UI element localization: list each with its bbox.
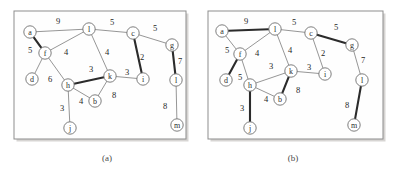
graph-node-b: b (89, 95, 101, 107)
edge-weight-a-l: 9 (244, 16, 248, 26)
graph-node-i: i (319, 68, 331, 80)
graph-node-m: m (348, 119, 360, 131)
graph-node-j: j (64, 122, 76, 134)
graph-node-k: k (104, 70, 116, 82)
node-label-m: m (174, 121, 181, 130)
node-label-g: g (350, 41, 354, 50)
graph-node-a: a (24, 26, 36, 38)
edge-weight-c-i: 2 (140, 52, 144, 62)
edge-weight-c-g: 5 (153, 23, 157, 33)
graph-node-c: c (127, 27, 139, 39)
node-label-h: h (66, 81, 70, 90)
node-label-d: d (30, 75, 34, 84)
graph-node-d: d (220, 74, 232, 86)
graph-node-a: a (216, 25, 228, 37)
node-label-g: g (170, 41, 174, 50)
node-label-a: a (220, 27, 224, 36)
panel-caption: (a) (102, 153, 112, 163)
node-label-d: d (224, 76, 228, 85)
edge-weight-h-k: 3 (89, 64, 93, 74)
graph-node-h: h (62, 79, 74, 91)
panel-b: 955445275343838alcgfdhkbiljm(b) (208, 11, 386, 163)
edge-weight-a-l: 9 (56, 16, 60, 26)
graph-node-d: d (26, 73, 38, 85)
edge-weight-l-c: 5 (110, 17, 114, 27)
edge-weight-h-j: 3 (240, 103, 244, 113)
edge-weight-g-L: 7 (178, 56, 182, 66)
edge-weight-f-d: 5 (238, 72, 242, 82)
edge-weight-g-L: 7 (361, 55, 365, 65)
edge-weight-h-j: 3 (60, 103, 64, 113)
figure-two-weighted-graphs: 955445276343838alcgfdhkbiljm(a)955445275… (0, 0, 397, 172)
edge-weight-c-i: 2 (321, 48, 325, 58)
node-label-k: k (289, 67, 293, 76)
node-label-j: j (68, 124, 71, 133)
graph-node-g: g (166, 39, 178, 51)
node-label-c: c (131, 29, 135, 38)
node-label-f: f (44, 49, 47, 58)
graph-node-i: i (137, 73, 149, 85)
edge-weight-k-i: 3 (125, 67, 129, 77)
edge-weight-k-i: 3 (307, 62, 311, 72)
edge-weight-c-g: 5 (334, 22, 338, 32)
edge-weight-b-k: 8 (112, 90, 116, 100)
node-label-f: f (239, 50, 242, 59)
graph-node-m: m (171, 119, 183, 131)
node-label-j: j (248, 124, 251, 133)
graph-node-c: c (305, 27, 317, 39)
panel-a: 955445276343838alcgfdhkbiljm(a) (14, 11, 189, 163)
graph-node-g: g (346, 39, 358, 51)
edge-weight-L-m: 8 (345, 100, 349, 110)
edge-weight-h-k: 3 (269, 61, 273, 71)
panel-caption: (b) (288, 153, 299, 163)
edge-weight-a-f: 5 (28, 45, 32, 55)
node-label-h: h (248, 81, 252, 90)
graph-node-f: f (234, 48, 246, 60)
node-label-a: a (28, 28, 32, 37)
edge-weight-L-m: 8 (163, 101, 167, 111)
edge-weight-b-k: 8 (296, 85, 300, 95)
edge-weight-f-h: 6 (48, 74, 52, 84)
graph-node-l: l (269, 23, 281, 35)
node-label-b: b (278, 95, 282, 104)
edge-weight-a-f: 5 (225, 45, 229, 55)
graph-node-j: j (244, 122, 256, 134)
edge-weight-l-c: 5 (292, 17, 296, 27)
graph-node-k: k (285, 65, 297, 77)
graph-node-f: f (39, 47, 51, 59)
graph-node-l: l (83, 23, 95, 35)
graph-node-b: b (274, 93, 286, 105)
graph-node-h: h (244, 79, 256, 91)
graph-node-L: l (170, 74, 182, 86)
panels-layer: 955445276343838alcgfdhkbiljm(a)955445275… (14, 11, 386, 163)
node-label-c: c (309, 29, 313, 38)
node-label-k: k (108, 72, 112, 81)
node-label-m: m (351, 121, 358, 130)
node-label-b: b (93, 97, 97, 106)
graph-node-L: l (356, 74, 368, 86)
